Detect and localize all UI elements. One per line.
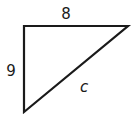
right-triangle-shape	[24, 26, 128, 112]
top-side-label: 8	[61, 5, 71, 23]
triangle-diagram: 8 9 c	[0, 0, 136, 122]
hypotenuse-label: c	[80, 78, 89, 96]
left-side-label: 9	[6, 62, 16, 80]
